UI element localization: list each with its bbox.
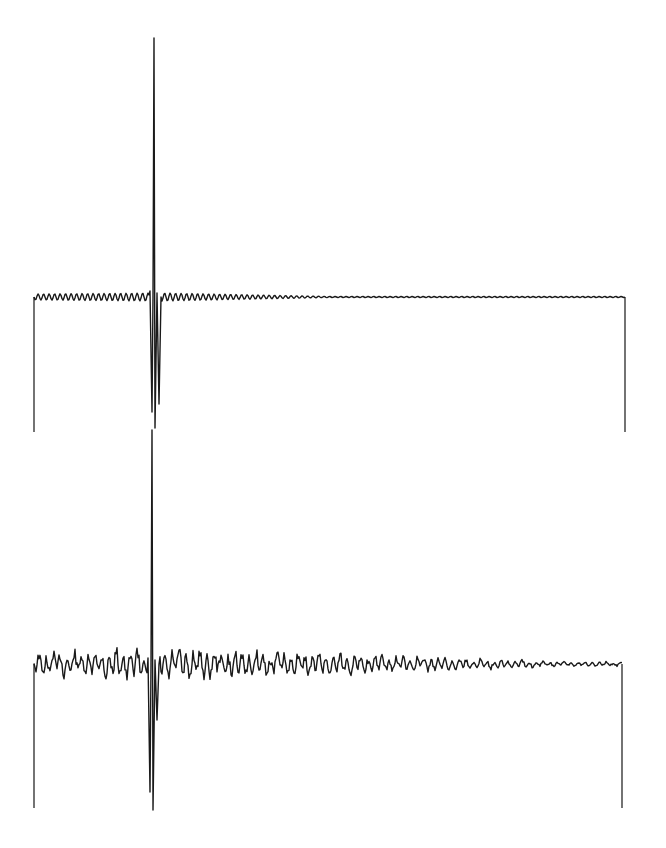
top-plot xyxy=(34,38,625,432)
top-waveform-trace xyxy=(34,38,625,428)
bottom-waveform-trace xyxy=(34,430,622,810)
waveform-figure xyxy=(0,0,666,848)
bottom-plot xyxy=(34,430,622,810)
top-plot-frame xyxy=(34,297,625,432)
bottom-plot-frame xyxy=(34,664,622,808)
